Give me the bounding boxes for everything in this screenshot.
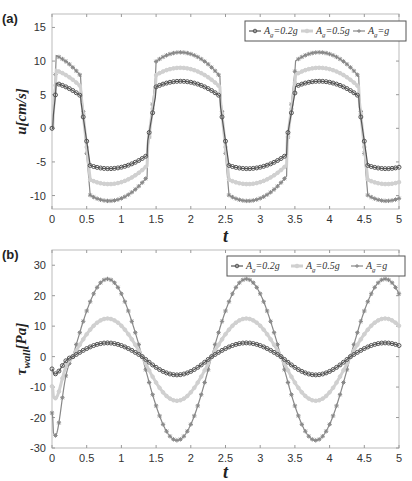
x-tick-label: 4 xyxy=(327,213,333,225)
x-tick-label: 1.5 xyxy=(148,452,163,464)
x-tick-label: 0 xyxy=(49,452,55,464)
y-tick-label: 10 xyxy=(34,55,46,67)
chart-panel-b: 00.511.522.533.544.55-30-20-100102030(b)… xyxy=(2,247,405,481)
panel-label: (b) xyxy=(2,247,19,262)
y-tick-label: -5 xyxy=(36,156,46,168)
x-tick-label: 2 xyxy=(188,452,194,464)
y-axis-label: u[cm/s] xyxy=(13,88,29,135)
x-tick-label: 4 xyxy=(327,452,333,464)
y-tick-label: -10 xyxy=(30,381,46,393)
figure: 00.511.522.533.544.55-10-5051015(a)tu[cm… xyxy=(0,0,412,481)
legend: Ag=0.2gAg=0.5gAg=g xyxy=(227,256,405,276)
x-tick-label: 5 xyxy=(396,452,402,464)
y-tick-label: 5 xyxy=(40,89,46,101)
y-tick-label: 20 xyxy=(34,290,46,302)
x-tick-label: 1.5 xyxy=(148,213,163,225)
x-tick-label: 2.5 xyxy=(218,213,233,225)
y-tick-label: -10 xyxy=(30,190,46,202)
y-tick-label: -20 xyxy=(30,412,46,424)
x-tick-label: 0 xyxy=(49,213,55,225)
plot-area xyxy=(52,14,399,209)
x-tick-label: 1 xyxy=(118,213,124,225)
x-tick-label: 3 xyxy=(257,213,263,225)
y-tick-label: 0 xyxy=(40,351,46,363)
x-tick-label: 0.5 xyxy=(79,452,94,464)
y-tick-label: 0 xyxy=(40,122,46,134)
y-tick-label: 10 xyxy=(34,320,46,332)
x-tick-label: 4.5 xyxy=(357,452,372,464)
x-tick-label: 4.5 xyxy=(357,213,372,225)
x-tick-label: 5 xyxy=(396,213,402,225)
legend: Ag=0.2gAg=0.5gAg=g xyxy=(245,21,406,41)
x-axis-label: t xyxy=(223,462,229,481)
x-tick-label: 3.5 xyxy=(287,452,302,464)
y-tick-label: 30 xyxy=(34,259,46,271)
x-tick-label: 1 xyxy=(118,452,124,464)
chart-panel-a: 00.511.522.533.544.55-10-5051015(a)tu[cm… xyxy=(2,11,406,246)
panel-label: (a) xyxy=(2,11,18,26)
y-tick-label: -30 xyxy=(30,442,46,454)
x-tick-label: 3 xyxy=(257,452,263,464)
y-tick-label: 15 xyxy=(34,21,46,33)
x-tick-label: 3.5 xyxy=(287,213,302,225)
x-axis-label: t xyxy=(223,226,229,246)
x-tick-label: 2 xyxy=(188,213,194,225)
y-axis-label: τwall[Pa] xyxy=(13,323,32,375)
x-tick-label: 0.5 xyxy=(79,213,94,225)
